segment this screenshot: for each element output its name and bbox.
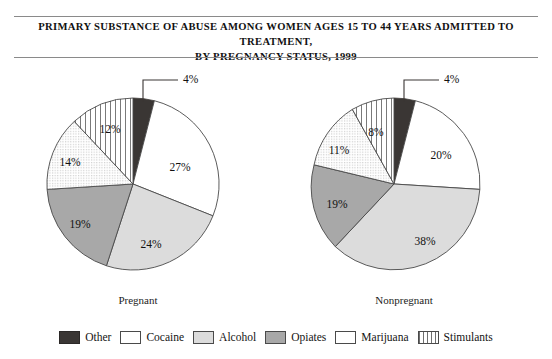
title-top-rule [14,16,538,17]
pie-slices-pregnant [47,98,219,270]
pie-caption-pregnant: Pregnant [0,294,276,306]
slice-value-cocaine-pregnant: 27% [169,161,191,173]
legend-item-opiates[interactable]: Opiates [265,331,326,344]
legend-label-alcohol: Alcohol [219,331,256,343]
legend-swatch-alcohol-icon [193,331,214,344]
slice-value-stimulants-nonpregnant: 8% [368,126,384,138]
legend-label-cocaine: Cocaine [146,331,184,343]
legend-swatch-opiates-icon [265,331,286,344]
slice-value-cocaine-nonpregnant: 20% [430,149,452,161]
slice-value-opiates-nonpregnant: 19% [326,198,348,210]
legend-swatch-stimulants-icon [418,331,439,344]
figure-title-line-1: PRIMARY SUBSTANCE OF ABUSE AMONG WOMEN A… [38,21,514,47]
legend-label-other: Other [85,331,111,343]
slice-value-other-pregnant: 4% [183,73,199,85]
slice-value-marijuana-pregnant: 14% [59,156,81,168]
slice-value-stimulants-pregnant: 12% [99,123,121,135]
legend-swatch-cocaine-icon [120,331,141,344]
legend-item-cocaine[interactable]: Cocaine [120,331,184,344]
pie-slices-nonpregnant [311,98,480,270]
legend-item-marijuana[interactable]: Marijuana [335,331,408,344]
pie-caption-nonpregnant: Nonpregnant [266,294,542,306]
slice-value-marijuana-nonpregnant: 11% [329,144,350,156]
legend-swatch-marijuana-icon [335,331,356,344]
slice-value-alcohol-nonpregnant: 38% [414,235,436,247]
slice-value-opiates-pregnant: 19% [69,218,91,230]
legend-item-other[interactable]: Other [59,331,111,344]
slice-value-other-nonpregnant: 4% [444,73,460,85]
pie-svg-nonpregnant: 4% 20% 38% 19% 11% 8% [266,58,542,308]
charts-row: 4% 27% 24% 19% 14% 12% Pregnant [0,58,552,308]
pie-svg-pregnant: 4% 27% 24% 19% 14% 12% [0,58,276,308]
callout-line-other-nonpregnant [404,80,439,102]
legend-swatch-other-icon [59,331,80,344]
legend-item-alcohol[interactable]: Alcohol [193,331,256,344]
figure-container: PRIMARY SUBSTANCE OF ABUSE AMONG WOMEN A… [0,0,552,359]
pie-chart-pregnant: 4% 27% 24% 19% 14% 12% Pregnant [0,58,276,308]
slice-value-alcohol-pregnant: 24% [140,238,162,250]
pie-chart-nonpregnant: 4% 20% 38% 19% 11% 8% Nonpregnant [266,58,542,308]
legend-label-opiates: Opiates [291,331,326,343]
legend-item-stimulants[interactable]: Stimulants [418,331,493,344]
callout-line-other-pregnant [143,80,178,102]
chart-legend: Other Cocaine Alcohol Opiates Marijuana … [0,322,552,352]
legend-label-marijuana: Marijuana [361,331,408,343]
legend-label-stimulants: Stimulants [444,331,493,343]
